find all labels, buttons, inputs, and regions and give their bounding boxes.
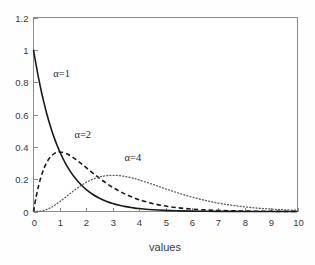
series-label-alpha-2: α=2 bbox=[74, 129, 91, 140]
y-tick-label: 0 bbox=[23, 207, 28, 218]
y-tick-label: 0.8 bbox=[15, 77, 28, 88]
x-tick-label: 2 bbox=[84, 217, 89, 228]
figure-canvas: 012345678910 00.20.40.60.811.2 α=1α=2α=4… bbox=[0, 0, 315, 265]
series-label-alpha-4: α=4 bbox=[125, 152, 142, 163]
x-tick-label: 9 bbox=[269, 217, 274, 228]
x-tick-label: 5 bbox=[164, 217, 169, 228]
y-tick-label: 0.4 bbox=[15, 142, 28, 153]
y-axis-tick-labels: 00.20.40.60.811.2 bbox=[15, 13, 28, 218]
y-tick-label: 0.2 bbox=[15, 174, 28, 185]
plot-background bbox=[33, 17, 297, 211]
x-tick-label: 7 bbox=[216, 217, 221, 228]
y-tick-label: 1.2 bbox=[15, 13, 28, 24]
gamma-pdf-chart: 012345678910 00.20.40.60.811.2 α=1α=2α=4… bbox=[0, 0, 315, 265]
x-tick-label: 0 bbox=[32, 217, 37, 228]
x-tick-label: 10 bbox=[293, 217, 304, 228]
x-tick-label: 8 bbox=[243, 217, 248, 228]
y-tick-label: 1 bbox=[23, 45, 28, 56]
x-axis-tick-labels: 012345678910 bbox=[32, 217, 304, 228]
series-label-alpha-1: α=1 bbox=[53, 68, 70, 79]
x-axis-title: values bbox=[149, 241, 181, 253]
x-tick-label: 4 bbox=[137, 217, 142, 228]
x-tick-label: 3 bbox=[111, 217, 116, 228]
x-tick-label: 1 bbox=[58, 217, 63, 228]
x-tick-label: 6 bbox=[190, 217, 195, 228]
y-tick-label: 0.6 bbox=[15, 110, 28, 121]
